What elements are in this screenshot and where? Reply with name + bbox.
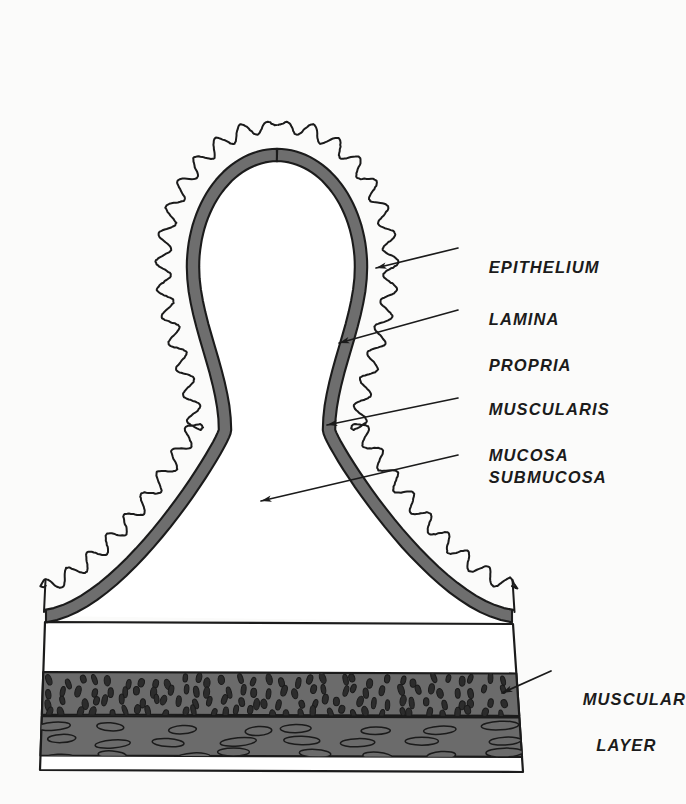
- label-submucosa-line1: SUBMUCOSA: [489, 468, 607, 486]
- label-submucosa: SUBMUCOSA: [466, 443, 607, 512]
- leader-muscularis-mucosa: [327, 398, 458, 425]
- label-muscular-layer-line1: MUSCULAR: [583, 690, 686, 708]
- muscular-layer-block: [37, 622, 523, 772]
- submucosa-region: [46, 161, 512, 622]
- label-muscular-layer: MUSCULAR LAYER: [560, 665, 670, 780]
- label-muscular-layer-line2: LAYER: [596, 736, 656, 754]
- label-lamina-propria-line2: PROPRIA: [489, 356, 572, 374]
- leader-epithelium: [376, 248, 458, 268]
- label-epithelium-line1: EPITHELIUM: [489, 258, 600, 276]
- label-lamina-propria-line1: LAMINA: [489, 310, 560, 328]
- label-muscularis-mucosa-line1: MUSCULARIS: [489, 400, 610, 418]
